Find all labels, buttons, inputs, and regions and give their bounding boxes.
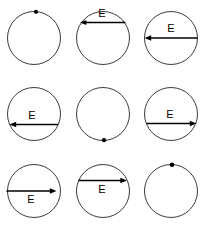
circle-outline: [7, 12, 60, 65]
arrow-head-left: [145, 35, 152, 40]
arrow-head-right: [50, 188, 57, 193]
edge-label: E: [98, 182, 105, 194]
node-dot-top: [34, 10, 38, 14]
edge-label: E: [167, 109, 174, 121]
arrow-head-right: [190, 121, 197, 126]
edge-label: E: [98, 7, 105, 19]
node-dot-bottom: [101, 138, 105, 142]
circle-outline: [76, 88, 129, 141]
diagram-cell-6: E: [137, 76, 206, 152]
edge-label: E: [168, 22, 175, 34]
circle-outline: [76, 12, 129, 65]
diagram-cell-5: [69, 76, 138, 152]
diagram-cell-1: [0, 0, 69, 76]
diagram-cell-4: E: [0, 76, 69, 152]
edge-label: E: [27, 193, 34, 205]
diagram-cell-7: E: [0, 153, 69, 229]
diagram-cell-3: E: [137, 0, 206, 76]
circle-outline: [145, 164, 198, 217]
diagram-cell-8: E: [69, 153, 138, 229]
diagram-cell-2: E: [69, 0, 138, 76]
node-dot-top: [170, 162, 175, 167]
circle-diagram-grid: E E E E: [0, 0, 206, 229]
diagram-cell-9: [137, 153, 206, 229]
edge-label: E: [28, 110, 35, 122]
